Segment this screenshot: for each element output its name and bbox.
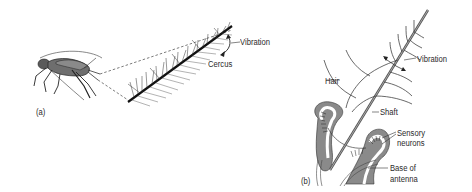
figure: (a) Vibration Cercus Vibration Hair Shaf… xyxy=(0,0,472,192)
panel-b-illustration xyxy=(300,0,472,192)
cercus-label: Cercus xyxy=(208,59,232,69)
base-of-antenna-label-line2: antenna xyxy=(390,174,418,184)
panel-b-label: (b) xyxy=(301,176,310,186)
sensory-neurons-label-line1: Sensory xyxy=(397,128,425,138)
panel-a-label: (a) xyxy=(36,107,45,117)
vibration-label-a: Vibration xyxy=(240,37,270,47)
vibration-label-b: Vibration xyxy=(417,54,447,64)
hair-label: Hair xyxy=(325,76,339,86)
cricket-icon xyxy=(34,51,102,100)
sensory-neurons-label-line2: neurons xyxy=(397,138,425,148)
antenna-base-tissue xyxy=(315,102,390,186)
shaft-label: Shaft xyxy=(380,107,398,117)
base-of-antenna-label-line1: Base of xyxy=(390,163,416,173)
panel-a-illustration xyxy=(0,0,300,192)
